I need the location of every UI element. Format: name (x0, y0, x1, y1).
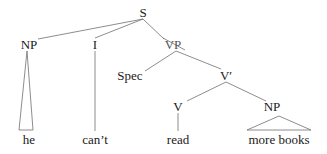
node-s: S (139, 6, 146, 19)
leaf-read: read (167, 133, 189, 146)
edge-vp-spec (145, 51, 176, 71)
edge-vp-vbar (176, 51, 221, 69)
node-spec: Spec (117, 69, 142, 82)
leaf-he: he (23, 133, 35, 146)
edge-s-vp (143, 19, 164, 39)
edge-vbar-np (226, 82, 266, 101)
node-np-object: NP (264, 100, 281, 113)
edge-s-np (38, 19, 143, 39)
triangle-np-he (19, 51, 33, 130)
node-i: I (93, 38, 97, 51)
node-v-bar: V′ (220, 69, 232, 82)
node-v: V (173, 100, 182, 113)
node-np-subject: NP (21, 38, 38, 51)
leaf-cant: can’t (82, 133, 108, 146)
edge-vbar-v (187, 82, 226, 101)
edge-s-i (95, 19, 143, 38)
leaf-more-books: more books (248, 133, 309, 146)
node-vp-struck: VP (165, 38, 182, 51)
triangle-np-more-books (247, 116, 311, 130)
